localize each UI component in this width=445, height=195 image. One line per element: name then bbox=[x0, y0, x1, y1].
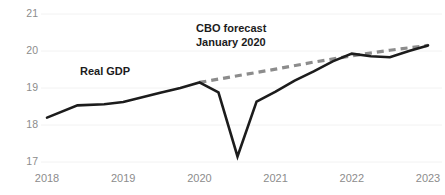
y-axis-tick-21: 21 bbox=[12, 8, 38, 19]
real-gdp-line bbox=[47, 45, 428, 156]
y-axis-tick-19: 19 bbox=[12, 82, 38, 93]
real-gdp-annotation: Real GDP bbox=[80, 65, 130, 79]
cbo-forecast-annotation-line1: CBO forecast bbox=[196, 22, 266, 36]
x-axis-tick-2019: 2019 bbox=[111, 172, 135, 184]
x-axis-tick-2020: 2020 bbox=[187, 172, 211, 184]
cbo-forecast-annotation-line2: January 2020 bbox=[196, 36, 266, 50]
real-gdp-annotation-line1: Real GDP bbox=[80, 65, 130, 79]
y-axis-tick-18: 18 bbox=[12, 119, 38, 130]
x-axis-tick-2023: 2023 bbox=[416, 172, 440, 184]
y-axis-tick-20: 20 bbox=[12, 45, 38, 56]
gdp-forecast-chart: 1718192021 201820192020202120222023 CBO … bbox=[0, 0, 445, 195]
cbo-forecast-annotation: CBO forecast January 2020 bbox=[196, 22, 266, 49]
x-axis-tick-2021: 2021 bbox=[263, 172, 287, 184]
x-axis-tick-2018: 2018 bbox=[35, 172, 59, 184]
y-axis-tick-17: 17 bbox=[12, 156, 38, 167]
x-axis-tick-2022: 2022 bbox=[340, 172, 364, 184]
